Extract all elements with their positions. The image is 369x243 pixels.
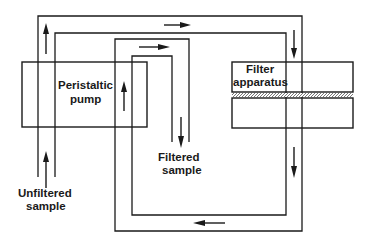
tube-inner (55, 33, 286, 215)
peristaltic-pump: Peristaltic pump (22, 62, 147, 127)
arrow-up-icon (43, 151, 49, 188)
arrow-right-icon (164, 22, 191, 28)
filter-lower-chamber (232, 98, 353, 128)
pump-label-line2: pump (70, 93, 101, 105)
filter-label-line1: Filter (246, 63, 275, 75)
inlet-label-line1: Unfiltered (18, 187, 72, 199)
filter-apparatus: Filter apparatus (232, 62, 353, 128)
arrow-up-icon (43, 23, 49, 54)
arrow-down-icon (178, 117, 184, 148)
arrow-right-icon (139, 44, 170, 50)
tubing (38, 16, 302, 231)
arrow-down-icon (291, 30, 297, 59)
arrow-up-icon (121, 81, 127, 111)
filter-label-line2: apparatus (233, 76, 288, 88)
tube-outer (38, 16, 302, 231)
inlet-label-line2: sample (26, 200, 66, 212)
arrow-down-icon (291, 147, 297, 178)
flow-arrows (43, 22, 297, 226)
pump-label-line1: Peristaltic (58, 79, 114, 91)
filtration-diagram: Peristaltic pump Filter apparatus (0, 0, 369, 243)
filter-membrane (232, 93, 353, 97)
arrow-left-icon (193, 220, 225, 226)
outlet-label-line2: sample (162, 164, 202, 176)
outlet-label-line1: Filtered (158, 151, 200, 163)
